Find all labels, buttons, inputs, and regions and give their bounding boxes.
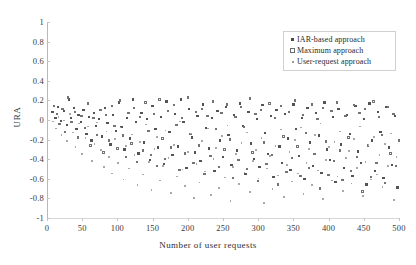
y-axis-title: URA — [12, 87, 22, 147]
data-point — [99, 109, 101, 111]
filled-square-icon — [288, 38, 297, 41]
data-point — [182, 121, 184, 123]
data-point — [61, 134, 63, 136]
y-tick-label: -0.4 — [4, 155, 44, 163]
data-point — [208, 147, 210, 149]
data-point — [202, 103, 204, 105]
data-point — [225, 106, 227, 108]
data-point — [240, 106, 242, 108]
data-point — [227, 125, 229, 127]
data-point — [203, 173, 205, 175]
data-point — [201, 108, 203, 110]
data-point — [226, 103, 228, 105]
data-point — [199, 182, 201, 184]
data-point — [294, 139, 296, 141]
data-point — [165, 130, 167, 132]
data-point — [180, 98, 182, 100]
data-point — [283, 196, 285, 198]
data-point — [309, 141, 311, 143]
data-point — [125, 145, 127, 147]
data-point — [74, 111, 76, 113]
data-point — [175, 124, 177, 126]
data-point — [199, 160, 201, 162]
legend-item-iar[interactable]: IAR-based approach — [288, 34, 392, 45]
y-tick-mark — [47, 22, 50, 23]
data-point — [67, 96, 69, 98]
small-dot-icon — [288, 61, 297, 63]
y-tick-label: 0.4 — [4, 77, 44, 85]
data-point — [87, 126, 89, 128]
data-point — [232, 177, 234, 179]
data-point — [356, 167, 358, 169]
data-point — [384, 182, 386, 184]
data-point — [102, 151, 104, 153]
data-point — [301, 117, 303, 119]
data-point — [161, 137, 163, 139]
data-point — [295, 128, 297, 130]
data-point — [269, 155, 271, 157]
data-point — [393, 199, 395, 201]
data-point — [91, 160, 93, 162]
data-point — [75, 146, 77, 148]
data-point — [151, 189, 153, 191]
data-point — [123, 179, 125, 181]
data-point — [98, 118, 100, 120]
data-point — [201, 140, 203, 142]
data-point — [332, 116, 334, 118]
y-tick-label: 0.6 — [4, 57, 44, 65]
data-point — [196, 163, 198, 165]
data-point — [227, 134, 229, 136]
data-point — [294, 99, 296, 101]
data-point — [75, 128, 77, 130]
data-point — [362, 195, 364, 197]
data-point — [229, 138, 231, 140]
data-point — [139, 116, 141, 118]
data-point — [61, 108, 63, 110]
data-point — [143, 141, 145, 143]
data-point — [334, 181, 336, 183]
data-point — [54, 117, 56, 119]
y-tick-mark — [47, 179, 50, 180]
data-point — [111, 173, 113, 175]
data-point — [336, 101, 338, 103]
data-point — [106, 122, 108, 124]
data-point — [123, 148, 125, 150]
data-point — [342, 190, 344, 192]
data-point — [106, 131, 108, 133]
data-point — [142, 149, 144, 151]
data-point — [334, 141, 336, 143]
data-point — [55, 128, 57, 130]
data-point — [306, 107, 308, 109]
data-point — [177, 145, 179, 147]
data-point — [232, 166, 234, 168]
data-point — [379, 154, 381, 156]
data-point — [256, 118, 258, 120]
data-point — [339, 131, 341, 133]
data-point — [103, 166, 105, 168]
data-point — [271, 154, 273, 156]
data-point — [127, 112, 129, 114]
data-point — [85, 137, 87, 139]
data-point — [178, 169, 180, 171]
data-point — [84, 127, 86, 129]
data-point — [125, 156, 127, 158]
data-point — [249, 97, 251, 99]
data-point — [81, 153, 83, 155]
data-point — [213, 158, 215, 160]
legend-item-user-request[interactable]: User-request approach — [288, 56, 392, 67]
x-tick-mark — [117, 218, 118, 221]
data-point — [243, 126, 245, 128]
y-tick-mark — [47, 140, 50, 141]
data-point — [108, 156, 110, 158]
data-point — [356, 156, 358, 158]
data-point — [115, 130, 117, 132]
data-point — [368, 144, 370, 146]
data-point — [272, 188, 274, 190]
legend-item-maximum[interactable]: Maximum approach — [288, 45, 392, 56]
y-tick-label: 1 — [4, 18, 44, 26]
data-point — [306, 162, 308, 164]
data-point — [282, 135, 284, 137]
data-point — [223, 148, 225, 150]
data-point — [298, 155, 300, 157]
x-tick-label: 100 — [97, 224, 137, 233]
